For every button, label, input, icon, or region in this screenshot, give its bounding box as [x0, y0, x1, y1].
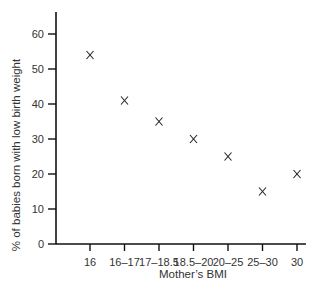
x-tick-label: 18.5–20 [174, 256, 214, 268]
x-axis: 1616–1717–18.518.5–2020–2525–3030 [56, 244, 306, 268]
data-point-x-marker [87, 51, 94, 59]
data-points [87, 51, 301, 196]
x-tick-label: 25–30 [247, 256, 278, 268]
x-axis-label: Mother’s BMI [159, 268, 227, 280]
y-tick-label: 40 [32, 98, 44, 110]
y-axis: 0102030405060 [32, 12, 56, 250]
x-tick-label: 16 [84, 256, 96, 268]
y-tick-label: 60 [32, 28, 44, 40]
y-tick-label: 20 [32, 168, 44, 180]
x-tick-label: 30 [291, 256, 303, 268]
x-tick-label: 16–17 [109, 256, 140, 268]
data-point-x-marker [156, 118, 163, 126]
y-tick-label: 0 [38, 238, 44, 250]
data-point-x-marker [294, 170, 301, 178]
y-tick-label: 10 [32, 203, 44, 215]
y-tick-label: 30 [32, 133, 44, 145]
data-point-x-marker [121, 97, 128, 105]
data-point-x-marker [259, 188, 266, 196]
y-tick-label: 50 [32, 63, 44, 75]
x-tick-label: 20–25 [213, 256, 244, 268]
scatter-chart: 0102030405060 1616–1717–18.518.5–2020–25… [0, 0, 316, 296]
data-point-x-marker [225, 153, 232, 161]
data-point-x-marker [190, 135, 197, 143]
y-axis-label: % of babies born with low birth weight [10, 58, 22, 251]
